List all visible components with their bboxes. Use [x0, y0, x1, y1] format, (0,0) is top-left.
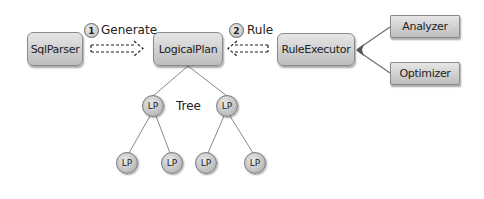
edge-right-rr: [230, 116, 253, 153]
edge-left-ll: [129, 116, 150, 153]
tree-label: Tree: [176, 99, 201, 113]
analyzer-box: Analyzer: [390, 15, 460, 38]
ruleexecutor-box: RuleExecutor: [277, 33, 355, 66]
sqlparser-box: SqlParser: [27, 32, 83, 66]
optimizer-box: Optimizer: [390, 62, 460, 85]
edge-right-rl: [208, 116, 224, 153]
tree-node-l2-3: LP: [195, 152, 217, 174]
generate-arrow-icon: [91, 45, 136, 52]
step-1-badge: 1: [84, 23, 99, 38]
rule-label: Rule: [247, 23, 273, 37]
generate-label: Generate: [101, 23, 157, 37]
tree-node-l2-1: LP: [116, 152, 138, 174]
step-2-badge: 2: [229, 23, 244, 38]
edge-root-left: [153, 66, 188, 96]
edge-root-right: [188, 66, 227, 96]
arrowhead-to-ruleexecutor: [356, 44, 364, 56]
tree-node-l2-4: LP: [244, 152, 266, 174]
tree-node-l1-left: LP: [142, 95, 164, 117]
tree-node-l1-right: LP: [216, 95, 238, 117]
edge-left-lr: [156, 116, 170, 153]
rule-arrow-icon: [235, 45, 268, 52]
logicalplan-box: LogicalPlan: [153, 32, 223, 66]
tree-node-l2-2: LP: [161, 152, 183, 174]
